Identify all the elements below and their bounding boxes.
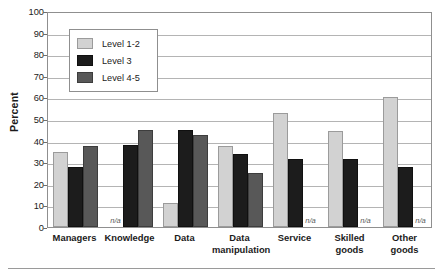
bar-group: n/a — [378, 13, 433, 227]
bar-group: n/a — [268, 13, 323, 227]
x-axis-label: Data — [157, 232, 212, 244]
bar-group: n/a — [323, 13, 378, 227]
x-axis-labels: ManagersKnowledgeDataDatamanipulationSer… — [47, 232, 432, 262]
bar-group — [213, 13, 268, 227]
legend-item: Level 3 — [77, 52, 151, 69]
y-tick-label: 90 — [10, 29, 44, 39]
x-axis-label: Knowledge — [102, 232, 157, 244]
bar — [383, 97, 398, 227]
legend-item: Level 1-2 — [77, 35, 151, 52]
y-tick-label: 40 — [10, 137, 44, 147]
y-tick-label: 50 — [10, 115, 44, 125]
bar — [248, 173, 263, 227]
bar — [138, 130, 153, 227]
bar-na: n/a — [413, 11, 428, 227]
y-tick-label: 80 — [10, 50, 44, 60]
y-tick-mark — [43, 228, 47, 229]
y-tick-label: 20 — [10, 180, 44, 190]
legend-swatch — [77, 72, 93, 83]
legend-swatch — [77, 38, 93, 49]
y-tick-label: 60 — [10, 93, 44, 103]
legend-label: Level 4-5 — [102, 73, 140, 83]
na-label: n/a — [415, 216, 426, 225]
legend-item: Level 4-5 — [77, 69, 151, 86]
bar — [273, 113, 288, 227]
x-axis-label: Skilledgoods — [322, 232, 377, 255]
bar — [343, 159, 358, 227]
bar — [123, 145, 138, 227]
bar — [68, 167, 83, 227]
y-tick-label: 0 — [10, 223, 44, 233]
bar — [233, 154, 248, 227]
bar — [178, 130, 193, 227]
bar — [193, 135, 208, 227]
bar-na: n/a — [303, 11, 318, 227]
bar — [163, 203, 178, 227]
bar-na: n/a — [358, 11, 373, 227]
legend-label: Level 1-2 — [102, 39, 140, 49]
bar — [288, 159, 303, 227]
y-tick-label: 100 — [10, 7, 44, 17]
bar — [218, 146, 233, 227]
bar-chart-figure: Percent 1009080706050403020100 n/an/an/a… — [0, 0, 443, 277]
bar-group — [158, 13, 213, 227]
na-label: n/a — [305, 216, 316, 225]
y-tick-label: 70 — [10, 72, 44, 82]
x-axis-label: Service — [267, 232, 322, 244]
legend-label: Level 3 — [102, 56, 132, 66]
bar — [398, 167, 413, 227]
chart-legend: Level 1-2Level 3Level 4-5 — [69, 29, 158, 92]
legend-swatch — [77, 55, 93, 66]
x-axis-label: Othergoods — [377, 232, 432, 255]
x-axis-label: Datamanipulation — [212, 232, 267, 255]
x-axis-label: Managers — [47, 232, 102, 244]
bar — [328, 131, 343, 227]
na-label: n/a — [110, 216, 121, 225]
bar — [53, 152, 68, 227]
bottom-divider — [8, 268, 435, 269]
na-label: n/a — [360, 216, 371, 225]
y-tick-label: 30 — [10, 158, 44, 168]
bar — [83, 146, 98, 227]
y-tick-label: 10 — [10, 201, 44, 211]
